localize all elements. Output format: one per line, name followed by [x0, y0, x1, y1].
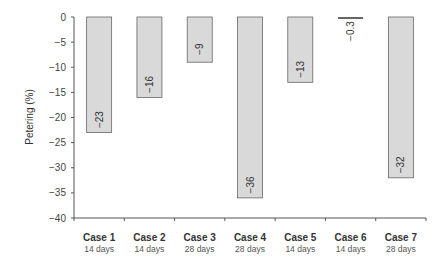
bar-value-label: −9 [194, 43, 205, 55]
x-category-label: Case 1 [83, 232, 116, 243]
y-tick-label: −35 [49, 187, 66, 198]
y-axis: 0−5−10−15−20−25−30−35−40 [49, 12, 74, 224]
x-category-label: Case 2 [133, 232, 166, 243]
bars: −23−16−9−36−13−0.3−32 [87, 17, 414, 198]
x-subcategory-label: 14 days [84, 244, 114, 254]
y-tick-label: −15 [49, 87, 66, 98]
y-tick-label: −20 [49, 112, 66, 123]
x-category-label: Case 4 [234, 232, 267, 243]
bar [338, 17, 363, 19]
y-tick-label: 0 [60, 12, 66, 23]
y-tick-label: −25 [49, 137, 66, 148]
bar [238, 17, 263, 198]
x-subcategory-label: 14 days [336, 244, 366, 254]
y-axis-label: Petering (%) [24, 89, 35, 145]
y-tick-label: −10 [49, 62, 66, 73]
bar-value-label: −16 [144, 75, 155, 92]
x-category-label: Case 7 [385, 232, 418, 243]
x-subcategory-label: 28 days [235, 244, 265, 254]
x-category-label: Case 3 [184, 232, 217, 243]
bar-value-label: −32 [395, 156, 406, 173]
x-category-label: Case 5 [284, 232, 317, 243]
bar-value-label: −23 [94, 111, 105, 128]
chart-canvas: 0−5−10−15−20−25−30−35−40 Case 114 daysCa… [0, 0, 448, 265]
x-subcategory-label: 28 days [185, 244, 215, 254]
x-axis: Case 114 daysCase 214 daysCase 328 daysC… [74, 218, 426, 254]
bar-value-label: −13 [295, 60, 306, 77]
bar-chart: 0−5−10−15−20−25−30−35−40 Case 114 daysCa… [0, 0, 448, 265]
y-tick-label: −5 [55, 37, 67, 48]
x-category-label: Case 6 [334, 232, 367, 243]
x-subcategory-label: 28 days [386, 244, 416, 254]
bar-value-label: −0.3 [345, 21, 356, 41]
bar [388, 17, 413, 178]
x-subcategory-label: 14 days [135, 244, 165, 254]
x-subcategory-label: 14 days [285, 244, 315, 254]
y-tick-label: −40 [49, 213, 66, 224]
bar-value-label: −36 [245, 176, 256, 193]
y-tick-label: −30 [49, 162, 66, 173]
